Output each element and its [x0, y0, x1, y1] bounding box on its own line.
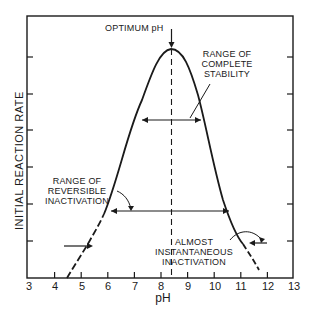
y-axis-label: INITIAL REACTION RATE: [13, 91, 25, 230]
x-tick-label: 10: [209, 280, 221, 292]
instant-label-line1: ALMOST: [149, 237, 239, 247]
arrowhead-right-icon: [195, 117, 201, 123]
reversible-label-line2: REVERSIBLE: [44, 186, 110, 196]
arrowhead-down-icon: [128, 206, 134, 211]
reversible-label-line3: INACTIVATION: [44, 196, 110, 206]
reversible-label-line1: RANGE OF: [44, 176, 110, 186]
optimum-arrowhead-icon: [169, 42, 175, 48]
arrowhead-left-icon: [249, 240, 255, 246]
x-tick-label: 11: [235, 280, 246, 292]
arrowhead-icon: [259, 237, 265, 243]
x-tick-label: 6: [105, 280, 111, 292]
arrowhead-right-icon: [87, 243, 93, 249]
stability-label-line2: COMPLETE: [196, 59, 258, 69]
arrowhead-left-icon: [142, 117, 148, 123]
reversible-label: RANGE OF REVERSIBLE INACTIVATION: [44, 176, 110, 206]
stability-label: RANGE OF COMPLETE STABILITY: [196, 49, 258, 79]
y-axis-ticks: [27, 57, 293, 241]
stability-label-line3: STABILITY: [196, 69, 258, 79]
instant-label: ALMOST INSTANTANEOUS INACTIVATION: [149, 237, 239, 267]
instant-label-line3: INACTIVATION: [149, 257, 239, 267]
x-tick-label: 9: [185, 280, 191, 292]
stability-label-line1: RANGE OF: [196, 49, 258, 59]
x-tick-label: 3: [26, 280, 32, 292]
x-tick-label: 13: [288, 280, 300, 292]
stability-leader-line: [190, 84, 210, 118]
x-axis-label: pH: [155, 291, 170, 305]
x-tick-label: 4: [52, 280, 58, 292]
x-tick-label: 12: [262, 280, 274, 292]
x-tick-label: 5: [79, 280, 85, 292]
arrowhead-left-icon: [111, 208, 117, 214]
x-axis-ticks: [55, 272, 268, 278]
curve-right-tail: [243, 244, 259, 270]
instant-label-line2: INSTANTANEOUS: [149, 247, 239, 257]
x-tick-label: 7: [132, 280, 138, 292]
optimum-ph-label: OPTIMUM pH: [105, 23, 164, 33]
